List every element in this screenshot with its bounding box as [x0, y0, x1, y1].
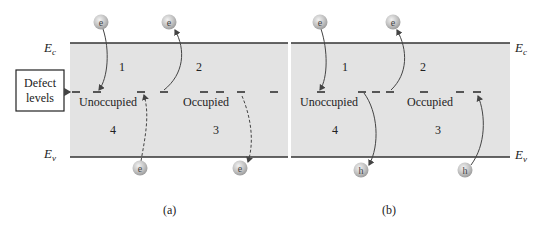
electron-particle-bottom-2-a: e [233, 161, 248, 176]
region-1-label-a: 1 [119, 60, 125, 74]
electron-particle-top-1-a: e [94, 15, 109, 30]
defect-levels-diagram: 1 2 3 4 Unoccupied Occupied e e e e (a) [0, 0, 540, 241]
region-4-label-b: 4 [332, 123, 338, 137]
ev-label-left: Ev [43, 146, 56, 163]
region-2-label-a: 2 [196, 60, 202, 74]
unoccupied-label-b: Unoccupied [300, 95, 358, 109]
ec-label-right: Ec [514, 40, 527, 57]
caption-b: (b) [382, 203, 396, 217]
svg-text:Ev: Ev [514, 147, 527, 164]
electron-particle-top-2-b: e [386, 15, 401, 30]
svg-text:e: e [318, 17, 323, 28]
svg-text:Defect: Defect [24, 76, 57, 90]
region-1-label-b: 1 [342, 60, 348, 74]
electron-particle-bottom-1-a: e [133, 161, 148, 176]
panel-b: 1 2 3 4 Unoccupied Occupied e e h h (b) [291, 15, 510, 218]
ec-label-left: Ec [43, 40, 56, 57]
svg-text:Ec: Ec [514, 40, 527, 57]
region-2-label-b: 2 [420, 60, 426, 74]
region-4-label-a: 4 [110, 123, 116, 137]
occupied-label-a: Occupied [183, 95, 229, 109]
svg-text:h: h [359, 165, 364, 176]
ev-label-right: Ev [514, 147, 527, 164]
electron-particle-top-1-b: e [313, 15, 328, 30]
hole-particle-bottom-2-b: h [458, 163, 473, 178]
svg-text:e: e [238, 163, 243, 174]
hole-particle-bottom-1-b: h [354, 163, 369, 178]
svg-text:e: e [167, 17, 172, 28]
occupied-label-b: Occupied [407, 95, 453, 109]
svg-text:e: e [99, 17, 104, 28]
electron-particle-top-2-a: e [162, 15, 177, 30]
region-3-label-b: 3 [435, 123, 441, 137]
region-3-label-a: 3 [213, 123, 219, 137]
svg-text:Ev: Ev [43, 146, 56, 163]
svg-text:levels: levels [26, 91, 54, 105]
panel-a: 1 2 3 4 Unoccupied Occupied e e e e (a) [70, 15, 288, 218]
svg-text:e: e [138, 163, 143, 174]
unoccupied-label-a: Unoccupied [79, 95, 137, 109]
defect-levels-callout: Defect levels [16, 70, 70, 111]
svg-text:e: e [391, 17, 396, 28]
svg-text:Ec: Ec [43, 40, 56, 57]
caption-a: (a) [163, 203, 176, 217]
svg-text:h: h [463, 165, 468, 176]
